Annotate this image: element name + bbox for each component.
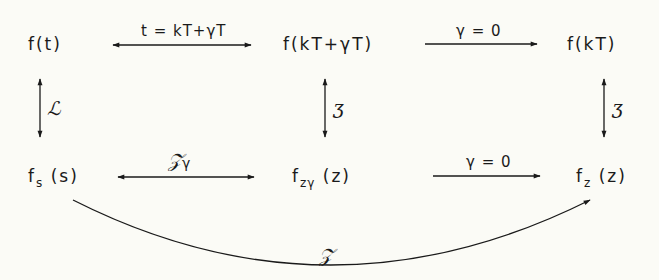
fzg-main: f	[292, 166, 300, 186]
fz-subscript: z	[584, 176, 591, 190]
label-z-middle: ʒ	[333, 98, 344, 117]
fs-subscript: s	[36, 176, 43, 190]
fz-main: f	[576, 166, 584, 186]
label-z-gamma: 𝒵γ	[168, 151, 191, 170]
fzg-argument: (z)	[315, 166, 351, 186]
z-gamma-sub: γ	[182, 155, 191, 171]
node-f-kT: f(kT)	[567, 36, 616, 53]
z-gamma-main: 𝒵	[168, 149, 182, 171]
label-z-curve: 𝒵	[319, 246, 333, 265]
fs-main: f	[28, 166, 36, 186]
label-t-equals: t = kT+γT	[141, 24, 226, 39]
node-fzgamma-z: fzγ (z)	[292, 168, 351, 185]
label-gamma-zero-bottom: γ = 0	[466, 155, 512, 170]
fzg-subscript: zγ	[300, 176, 315, 190]
node-fz-z: fz (z)	[576, 168, 627, 185]
label-gamma-zero-top: γ = 0	[456, 24, 502, 39]
fz-argument: (z)	[591, 166, 627, 186]
node-f-t: f(t)	[28, 36, 62, 53]
fs-argument: (s)	[43, 166, 79, 186]
node-fs-s: fs (s)	[28, 168, 79, 185]
label-z-right: ʒ	[612, 98, 623, 117]
node-f-kT-plus-gammaT: f(kT+γT)	[283, 36, 373, 53]
label-laplace: ℒ	[47, 99, 61, 118]
